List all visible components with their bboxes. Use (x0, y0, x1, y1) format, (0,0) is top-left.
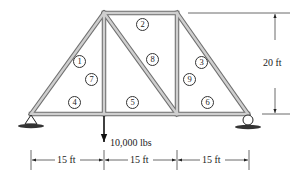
member-label-4: 4 (68, 96, 81, 109)
member-label-9: 9 (183, 73, 196, 86)
member-label-8: 8 (146, 53, 159, 66)
member-label-1: 1 (73, 55, 86, 68)
height-dimension-label: 20 ft (262, 57, 283, 68)
roller-support-icon (235, 115, 261, 129)
member-label-3: 3 (195, 56, 208, 69)
load-label: 10,000 lbs (110, 137, 152, 148)
member-label-2: 2 (136, 18, 149, 31)
truss-diagram (0, 0, 300, 182)
pin-support-icon (18, 115, 44, 128)
span-dimension-label-2: 15 ft (130, 154, 149, 165)
span-dimension-label-1: 15 ft (57, 154, 76, 165)
span-dimension-label-3: 15 ft (202, 154, 221, 165)
member-label-5: 5 (126, 96, 139, 109)
member-label-7: 7 (85, 73, 98, 86)
member-label-6: 6 (201, 96, 214, 109)
